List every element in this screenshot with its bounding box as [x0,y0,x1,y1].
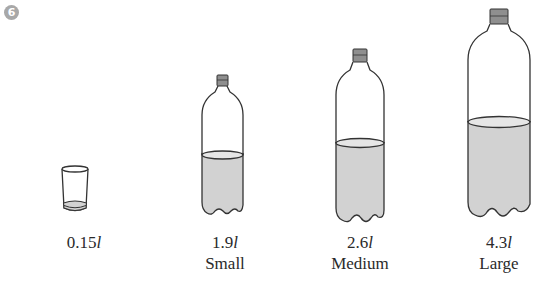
medium-bottle-icon [336,49,384,222]
large-bottle-icon [468,9,530,216]
medium-bottle-volume: 2.6l [331,232,389,253]
large-bottle-volume: 4.3l [479,232,518,253]
small-bottle-label: 1.9l Small [205,232,245,274]
glass-icon [62,166,88,211]
glass-volume-label: 0.15l [67,232,101,253]
medium-bottle-label: 2.6l Medium [331,232,389,274]
medium-bottle-size-name: Medium [331,253,389,274]
small-bottle-volume: 1.9l [205,232,245,253]
small-bottle-size-name: Small [205,253,245,274]
large-bottle-label: 4.3l Large [479,232,518,274]
large-bottle-size-name: Large [479,253,518,274]
small-bottle-icon [202,75,243,214]
